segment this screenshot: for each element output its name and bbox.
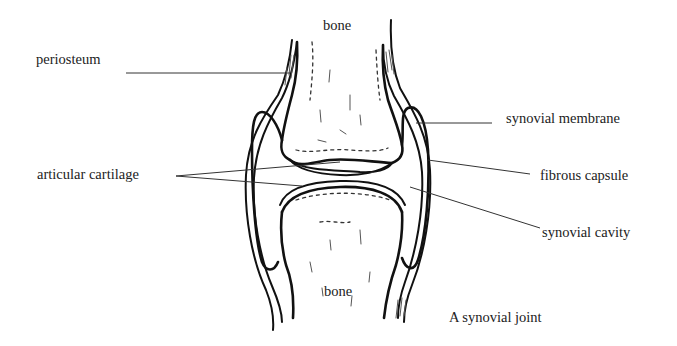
diagram-title: A synovial joint	[449, 310, 542, 325]
label-bone-top: bone	[323, 18, 351, 33]
fibrous-capsule-leader	[428, 160, 530, 174]
left-synovial-membrane	[252, 112, 282, 270]
label-periosteum: periosteum	[36, 52, 100, 67]
label-synovial-cavity: synovial cavity	[542, 225, 630, 240]
label-bone-bottom: bone	[324, 284, 352, 299]
label-articular-cartilage: articular cartilage	[37, 167, 139, 182]
label-synovial-membrane: synovial membrane	[506, 111, 620, 126]
label-fibrous-capsule: fibrous capsule	[540, 168, 628, 183]
articular-cartilage-leader-lower	[176, 176, 302, 186]
right-fibrous-capsule	[383, 20, 430, 322]
